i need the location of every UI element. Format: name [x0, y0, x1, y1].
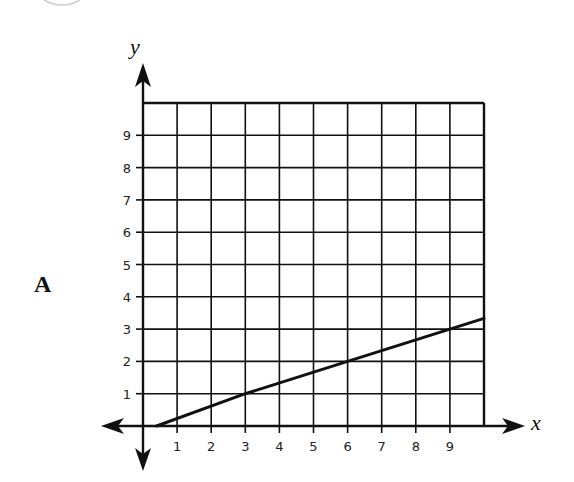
y-tick-label: 8 [123, 161, 131, 176]
y-tick-label: 2 [123, 354, 131, 369]
y-tick-label: 3 [123, 322, 131, 337]
y-tick-label: 4 [123, 290, 131, 305]
y-tick-label: 5 [123, 258, 131, 273]
y-tick-label: 7 [123, 193, 131, 208]
x-tick-label: 4 [275, 439, 283, 454]
x-tick-label: 6 [343, 439, 351, 454]
x-tick-label: 2 [207, 439, 215, 454]
coordinate-graph: 123456789123456789 y x A [0, 0, 574, 482]
x-tick-label: 9 [446, 439, 454, 454]
tick-labels: 123456789123456789 [123, 128, 454, 454]
x-tick-label: 8 [412, 439, 420, 454]
data-line [157, 318, 484, 426]
x-tick-label: 1 [173, 439, 181, 454]
grid [143, 103, 484, 426]
y-tick-label: 9 [123, 128, 131, 143]
page-artifact-arc [44, 0, 80, 5]
x-tick-label: 3 [241, 439, 249, 454]
y-tick-label: 1 [123, 387, 131, 402]
x-tick-label: 7 [378, 439, 386, 454]
data-series [157, 318, 484, 426]
y-tick-label: 6 [123, 225, 131, 240]
x-tick-label: 5 [309, 439, 317, 454]
option-label: A [34, 271, 52, 297]
y-axis-label: y [128, 34, 140, 59]
x-axis-label: x [530, 410, 541, 435]
